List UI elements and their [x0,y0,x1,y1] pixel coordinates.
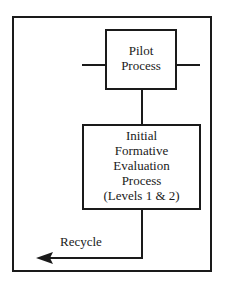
initial-process-label: Initial Formative Evaluation Process (Le… [83,128,200,203]
pilot-label-line2: Process [106,58,176,73]
initial-label-line3: Evaluation [83,158,200,173]
recycle-label: Recycle [60,234,102,249]
pilot-label-line1: Pilot [106,43,176,58]
initial-label-line5: (Levels 1 & 2) [83,188,200,203]
pilot-process-label: Pilot Process [106,43,176,73]
initial-label-line4: Process [83,173,200,188]
initial-label-line1: Initial [83,128,200,143]
initial-label-line2: Formative [83,143,200,158]
